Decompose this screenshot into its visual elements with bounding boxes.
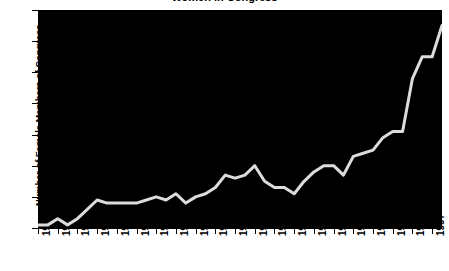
x-tick-mark [255, 229, 256, 234]
chart-title: Women in Congress [0, 0, 449, 3]
x-tick-mark [97, 229, 98, 234]
x-tick-mark [176, 229, 177, 234]
x-tick-mark [334, 229, 335, 234]
x-tick-mark [274, 229, 275, 234]
chart-figure: Women in Congress Number of Female Membe… [0, 0, 449, 271]
x-tick-mark [294, 229, 295, 234]
x-tick-mark [432, 229, 433, 234]
x-tick-mark [117, 229, 118, 234]
x-tick-mark [77, 229, 78, 234]
x-tick-mark [137, 229, 138, 234]
x-tick-mark [235, 229, 236, 234]
x-tick-mark [196, 229, 197, 234]
x-tick-mark [314, 229, 315, 234]
x-tick-mark [58, 229, 59, 234]
line-series [38, 10, 442, 228]
x-tick-mark [215, 229, 216, 234]
x-tick-mark [393, 229, 394, 234]
series-polyline [38, 26, 442, 225]
x-tick-mark [373, 229, 374, 234]
x-tick-mark [38, 229, 39, 234]
x-tick-mark [353, 229, 354, 234]
plot-area [38, 10, 442, 228]
x-tick-mark [412, 229, 413, 234]
x-tick-mark [156, 229, 157, 234]
